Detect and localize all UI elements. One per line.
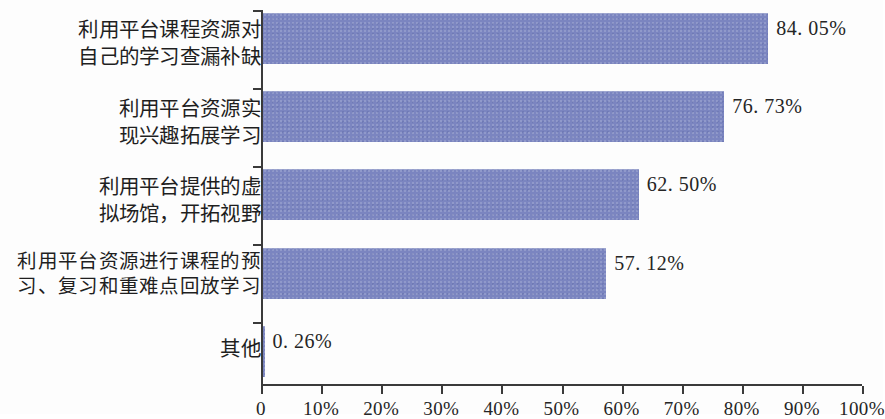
x-axis-tick-label: 30% bbox=[423, 398, 459, 419]
x-axis-tick bbox=[622, 386, 624, 394]
x-axis-tick bbox=[682, 386, 684, 394]
x-axis-tick bbox=[802, 386, 804, 394]
x-axis-tick bbox=[562, 386, 564, 394]
category-label-4: 其他 bbox=[0, 336, 261, 363]
x-axis-tick bbox=[862, 386, 864, 394]
category-label-1: 利用平台资源实 现兴趣拓展学习 bbox=[0, 96, 261, 149]
category-label-0: 利用平台课程资源对 自己的学习查漏补缺 bbox=[0, 17, 261, 70]
x-axis-tick-label: 40% bbox=[483, 398, 519, 419]
bar-4 bbox=[263, 326, 265, 377]
y-axis-tick bbox=[253, 244, 262, 246]
x-axis-tick-label: 90% bbox=[784, 398, 820, 419]
x-axis-tick-label: 50% bbox=[543, 398, 579, 419]
x-axis-tick bbox=[501, 386, 503, 394]
x-axis-tick-label: 0 bbox=[256, 398, 266, 419]
x-axis-tick-label: 60% bbox=[604, 398, 640, 419]
y-axis-tick bbox=[253, 166, 262, 168]
x-axis-tick bbox=[441, 386, 443, 394]
bar-2 bbox=[263, 169, 639, 220]
bar-1 bbox=[263, 91, 724, 142]
x-axis-tick bbox=[381, 386, 383, 394]
y-axis-tick bbox=[253, 10, 262, 12]
value-label-2: 62. 50% bbox=[647, 173, 717, 196]
x-axis-tick bbox=[742, 386, 744, 394]
plot-area: 010%20%30%40%50%60%70%80%90%100% bbox=[261, 10, 862, 385]
bar-0 bbox=[263, 13, 768, 64]
x-axis-tick-label: 80% bbox=[724, 398, 760, 419]
x-axis-tick bbox=[321, 386, 323, 394]
x-axis-tick-label: 70% bbox=[664, 398, 700, 419]
value-label-4: 0. 26% bbox=[273, 330, 333, 353]
x-axis-tick bbox=[261, 386, 263, 394]
value-label-0: 84. 05% bbox=[776, 17, 846, 40]
x-axis-tick-label: 20% bbox=[363, 398, 399, 419]
x-axis-tick-label: 10% bbox=[303, 398, 339, 419]
value-label-3: 57. 12% bbox=[614, 252, 684, 275]
category-label-2: 利用平台提供的虚 拟场馆，开拓视野 bbox=[0, 174, 261, 227]
x-axis-tick-label: 100% bbox=[839, 398, 885, 419]
category-label-3: 利用平台资源进行课程的预 习、复习和重难点回放学习 bbox=[0, 249, 261, 300]
value-label-1: 76. 73% bbox=[732, 95, 802, 118]
bar-3 bbox=[263, 248, 606, 299]
y-axis-tick bbox=[253, 88, 262, 90]
y-axis-tick bbox=[253, 322, 262, 324]
